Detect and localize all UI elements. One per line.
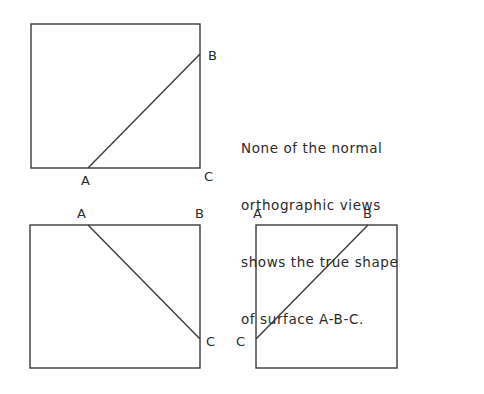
front-view-label-c: C [206,334,215,349]
front-view-outline [30,225,200,368]
note-line: shows the true shape [241,253,398,272]
top-view-label-b: B [208,48,217,63]
front-view-label-a: A [77,206,86,221]
top-view-edge-a-b [88,54,200,168]
top-view-label-c: C [204,169,213,184]
note-line: of surface A-B-C. [241,310,398,329]
top-view-label-a: A [81,173,90,188]
note-line: orthographic views [241,196,398,215]
explanatory-note: None of the normal orthographic views sh… [241,101,398,348]
note-line: None of the normal [241,139,398,158]
top-view-outline [31,24,200,168]
front-view-edge-a-c [88,225,200,339]
front-view-label-b: B [195,206,204,221]
